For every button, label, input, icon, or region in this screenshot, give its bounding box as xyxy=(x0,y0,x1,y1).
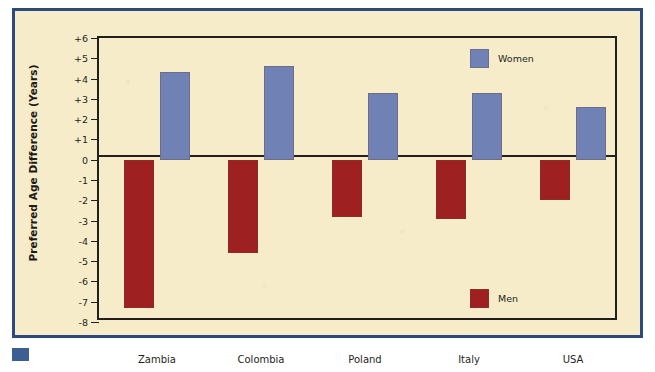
y-tick-mark xyxy=(91,302,99,303)
x-axis-label-italy: Italy xyxy=(458,354,480,365)
y-axis-title: Preferred Age Difference (Years) xyxy=(27,64,39,261)
bar-men-zambia xyxy=(124,160,154,308)
y-tick-mark xyxy=(91,200,99,201)
y-tick-mark xyxy=(91,119,99,120)
bar-women-usa xyxy=(576,107,606,160)
bar-women-colombia xyxy=(264,66,294,159)
legend-swatch-men-icon xyxy=(470,289,489,308)
y-tick-label: +1 xyxy=(62,134,88,145)
y-tick-label: +4 xyxy=(62,73,88,84)
y-tick-mark xyxy=(91,139,99,140)
bar-men-colombia xyxy=(228,160,258,253)
y-tick-mark xyxy=(91,58,99,59)
x-axis-label-poland: Poland xyxy=(348,354,381,365)
y-tick-label: +3 xyxy=(62,93,88,104)
legend-label-men: Men xyxy=(498,293,518,304)
bar-men-poland xyxy=(332,160,362,217)
bar-men-italy xyxy=(436,160,466,219)
x-axis-label-zambia: Zambia xyxy=(138,354,176,365)
chart-figure: Preferred Age Difference (Years) +6+5+4+… xyxy=(0,0,655,372)
y-tick-mark xyxy=(91,281,99,282)
y-tick-label: +2 xyxy=(62,114,88,125)
bar-women-zambia xyxy=(160,72,190,159)
bar-women-italy xyxy=(472,93,502,160)
y-tick-label: -1 xyxy=(62,175,88,186)
x-axis-label-colombia: Colombia xyxy=(238,354,285,365)
legend-swatch-women-icon xyxy=(470,49,489,68)
y-tick-label: +6 xyxy=(62,33,88,44)
y-tick-label: -6 xyxy=(62,276,88,287)
y-tick-label: -5 xyxy=(62,256,88,267)
bar-men-usa xyxy=(540,160,570,201)
legend-label-women: Women xyxy=(498,53,534,64)
legend-item-women: Women xyxy=(470,49,534,68)
y-tick-mark xyxy=(91,180,99,181)
plot-area: +6+5+4+3+2+10-1-2-3-4-5-6-7-8 ZambiaColo… xyxy=(97,36,617,320)
y-tick-mark xyxy=(91,322,99,323)
y-tick-mark xyxy=(91,221,99,222)
bar-women-poland xyxy=(368,93,398,160)
legend-item-men: Men xyxy=(470,289,518,308)
y-tick-label: -3 xyxy=(62,215,88,226)
y-tick-label: -2 xyxy=(62,195,88,206)
y-tick-label: 0 xyxy=(62,154,88,165)
y-tick-label: -8 xyxy=(62,317,88,328)
y-tick-label: -7 xyxy=(62,296,88,307)
y-tick-mark xyxy=(91,261,99,262)
y-tick-mark xyxy=(91,38,99,39)
y-tick-mark xyxy=(91,241,99,242)
page-marker-square xyxy=(12,348,29,361)
y-tick-mark xyxy=(91,99,99,100)
figure-frame: Preferred Age Difference (Years) +6+5+4+… xyxy=(12,8,643,338)
y-tick-mark xyxy=(91,160,99,161)
y-tick-label: +5 xyxy=(62,53,88,64)
y-tick-label: -4 xyxy=(62,235,88,246)
x-axis-label-usa: USA xyxy=(563,354,584,365)
y-tick-mark xyxy=(91,79,99,80)
